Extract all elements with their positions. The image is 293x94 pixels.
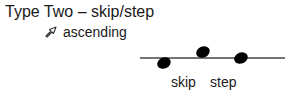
staff (0, 0, 293, 94)
note-3 (232, 50, 249, 66)
skip-label: skip (171, 74, 196, 90)
step-label: step (210, 74, 236, 90)
